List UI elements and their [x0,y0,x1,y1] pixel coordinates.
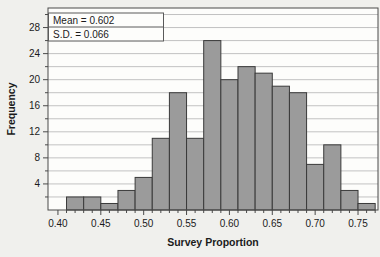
histogram-bar [152,138,169,210]
y-axis-tick-label: 28 [29,22,41,33]
histogram-bar [221,80,238,210]
histogram-bar [324,145,341,210]
y-axis-tick-label: 12 [29,126,41,137]
histogram-bar [307,164,324,210]
histogram-bar [255,73,272,210]
y-axis-tick-label: 16 [29,100,41,111]
histogram-bar [118,190,135,210]
histogram-bar [272,86,289,210]
x-axis-title: Survey Proportion [167,236,259,248]
x-axis-tick-label: 0.70 [305,218,325,229]
histogram-bar [358,203,375,210]
x-axis-tick-label: 0.55 [177,218,197,229]
histogram-bar [341,190,358,210]
histogram-bar [84,197,101,210]
histogram-bar [135,177,152,210]
histogram-bar [238,67,255,210]
x-axis-tick-label: 0.45 [91,218,111,229]
y-axis-tick-label: 8 [34,152,40,163]
histogram-bar [187,138,204,210]
histogram-bar [101,203,118,210]
histogram-bar [204,41,221,210]
x-axis-tick-label: 0.75 [348,218,368,229]
y-axis-tick-label: 4 [34,178,40,189]
histogram-bar [67,197,84,210]
y-axis-title: Frequency [5,82,17,135]
y-axis-tick-label: 20 [29,74,41,85]
stats-mean-label: Mean = 0.602 [53,15,115,26]
histogram-bar [169,93,186,210]
histogram-bar [289,93,306,210]
x-axis-tick-label: 0.40 [48,218,68,229]
histogram-chart: 4812162024280.400.450.500.550.600.650.70… [0,0,380,257]
x-axis-tick-label: 0.60 [220,218,240,229]
y-axis-tick-label: 24 [29,48,41,59]
stats-sd-label: S.D. = 0.066 [53,29,109,40]
x-axis-tick-label: 0.50 [134,218,154,229]
x-axis-tick-label: 0.65 [263,218,283,229]
histogram-figure: 4812162024280.400.450.500.550.600.650.70… [0,0,380,257]
